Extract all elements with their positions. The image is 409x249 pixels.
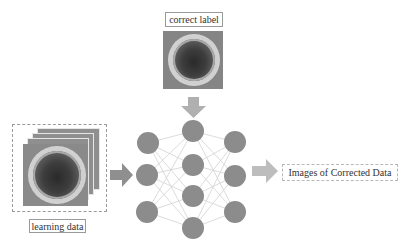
hidden-node-2	[182, 154, 204, 176]
input-node-2	[136, 164, 158, 186]
input-node-3	[136, 201, 158, 223]
arrow-right-output-icon	[252, 159, 278, 183]
output-node-2	[224, 165, 246, 187]
arrow-right-icon	[110, 163, 133, 187]
output-node-3	[224, 201, 246, 223]
neural-network-diagram	[0, 0, 409, 249]
network-nodes	[136, 120, 246, 239]
output-node-1	[224, 131, 246, 153]
hidden-node-4	[182, 217, 204, 239]
input-node-1	[137, 132, 159, 154]
arrow-down-icon	[181, 97, 206, 118]
network-edges	[147, 131, 235, 228]
hidden-node-1	[182, 120, 204, 142]
hidden-node-3	[182, 185, 204, 207]
